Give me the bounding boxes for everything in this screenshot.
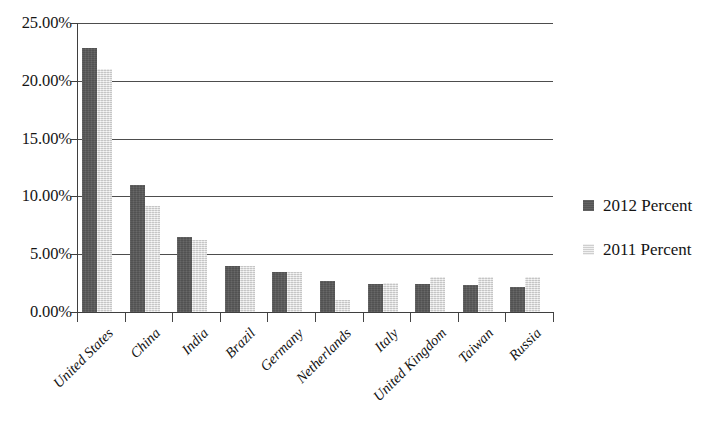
- x-axis-category-label: China: [128, 324, 165, 361]
- bar-group: [77, 23, 125, 312]
- x-axis-tick: [77, 313, 78, 322]
- legend-swatch-icon-2012: [583, 200, 594, 211]
- bar-group: [315, 23, 363, 312]
- bar-2011: [335, 300, 350, 312]
- bar-2012: [320, 281, 335, 312]
- y-axis-tick-label: 15.00%: [2, 131, 72, 148]
- bar-2011: [240, 266, 255, 312]
- y-axis-tick: [70, 23, 78, 24]
- bar-2011: [383, 283, 398, 312]
- x-axis-category-label: United States: [50, 324, 117, 391]
- chart-legend: 2012 Percent 2011 Percent: [583, 193, 711, 281]
- bar-2011: [97, 69, 112, 312]
- x-axis-category-label: Italy: [372, 324, 402, 354]
- bar-group: [220, 23, 268, 312]
- bar-2012: [82, 48, 97, 312]
- bar-2011: [478, 277, 493, 312]
- bar-2012: [130, 185, 145, 312]
- y-axis-tick: [70, 196, 78, 197]
- x-axis-tick: [363, 313, 364, 322]
- x-axis-tick: [220, 313, 221, 322]
- y-axis-tick: [70, 254, 78, 255]
- y-axis-tick-label: 5.00%: [2, 246, 72, 263]
- y-axis-tick: [70, 81, 78, 82]
- legend-item-2011: 2011 Percent: [583, 237, 711, 261]
- legend-label-2012: 2012 Percent: [603, 197, 692, 214]
- bar-2012: [225, 266, 240, 312]
- legend-item-2012: 2012 Percent: [583, 193, 711, 217]
- x-axis-tick: [458, 313, 459, 322]
- bar-group: [267, 23, 315, 312]
- x-axis-tick: [505, 313, 506, 322]
- x-axis-tick: [315, 313, 316, 322]
- bar-2011: [145, 206, 160, 312]
- bar-chart: 0.00%5.00%10.00%15.00%20.00%25.00% Unite…: [0, 0, 711, 438]
- bar-2012: [415, 284, 430, 312]
- legend-label-2011: 2011 Percent: [603, 241, 692, 258]
- bar-2012: [463, 285, 478, 312]
- bar-group: [363, 23, 411, 312]
- x-axis-tick: [125, 313, 126, 322]
- bar-group: [458, 23, 506, 312]
- y-axis-tick: [70, 139, 78, 140]
- legend-swatch-icon-2011: [583, 244, 594, 255]
- bar-2012: [510, 287, 525, 312]
- bar-2011: [192, 240, 207, 312]
- x-axis-tick: [553, 313, 554, 322]
- x-axis-category-label: Taiwan: [456, 324, 497, 365]
- x-axis-tick: [410, 313, 411, 322]
- x-axis-category-label: India: [179, 324, 212, 357]
- bar-2012: [177, 237, 192, 312]
- bar-2012: [272, 272, 287, 312]
- x-axis-tick: [172, 313, 173, 322]
- y-axis-tick-label: 20.00%: [2, 73, 72, 90]
- x-axis-labels: United StatesChinaIndiaBrazilGermanyNeth…: [0, 312, 560, 438]
- bar-2011: [287, 272, 302, 312]
- x-axis-category-label: Brazil: [223, 324, 260, 361]
- bar-2012: [368, 284, 383, 312]
- bar-2011: [430, 277, 445, 312]
- bar-group: [410, 23, 458, 312]
- x-axis-tick: [267, 313, 268, 322]
- bar-group: [505, 23, 553, 312]
- y-axis-tick-label: 25.00%: [2, 15, 72, 32]
- y-axis-tick-label: 10.00%: [2, 188, 72, 205]
- bar-group: [125, 23, 173, 312]
- x-axis-category-label: Russia: [506, 324, 545, 363]
- bar-2011: [525, 277, 540, 312]
- plot-area: [77, 23, 553, 312]
- bar-group: [172, 23, 220, 312]
